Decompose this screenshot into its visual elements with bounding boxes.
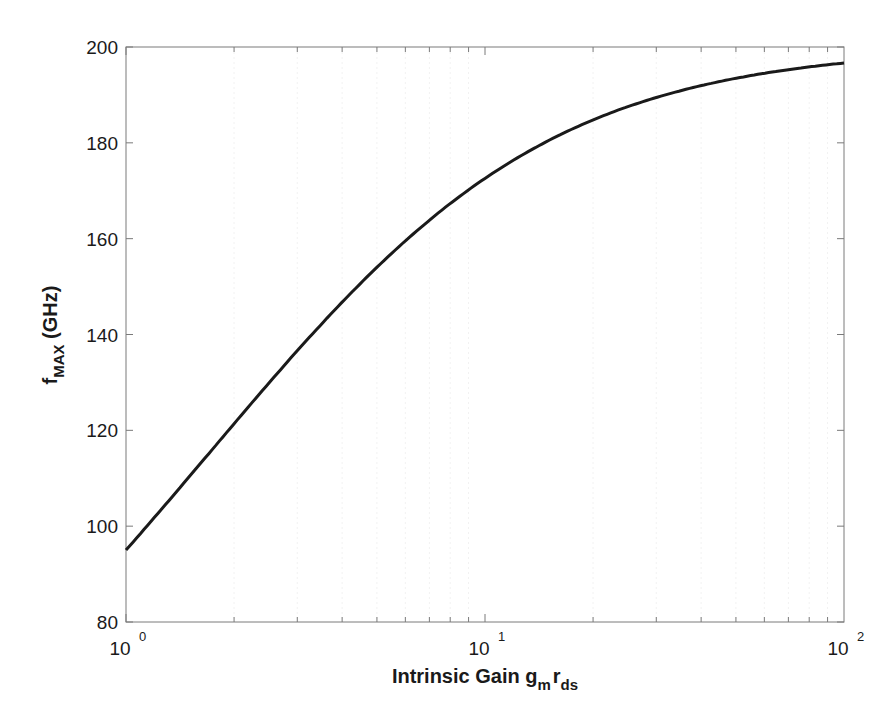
x-tick-labels: 100101102 bbox=[109, 629, 864, 659]
grid-lines bbox=[234, 47, 828, 622]
x-tick-exponent: 1 bbox=[498, 629, 505, 644]
y-tick-labels: 80100120140160180200 bbox=[86, 37, 118, 633]
x-tick-exponent: 2 bbox=[857, 629, 864, 644]
chart: 80100120140160180200 100101102 Intrinsic… bbox=[0, 0, 895, 727]
x-tick-label: 10 bbox=[109, 638, 130, 659]
y-axis-label: fMAX (GHz) bbox=[39, 286, 67, 385]
y-tick-label: 120 bbox=[86, 420, 118, 441]
x-tick-exponent: 0 bbox=[139, 629, 146, 644]
y-tick-label: 180 bbox=[86, 133, 118, 154]
y-tick-label: 100 bbox=[86, 516, 118, 537]
x-tick-label: 10 bbox=[827, 638, 848, 659]
y-tick-label: 80 bbox=[97, 612, 118, 633]
y-tick-label: 200 bbox=[86, 37, 118, 58]
y-tick-label: 160 bbox=[86, 229, 118, 250]
y-tick-label: 140 bbox=[86, 325, 118, 346]
x-tick-label: 10 bbox=[468, 638, 489, 659]
x-axis-label: Intrinsic Gain gmrds bbox=[392, 665, 578, 693]
fmax-curve bbox=[126, 63, 844, 550]
